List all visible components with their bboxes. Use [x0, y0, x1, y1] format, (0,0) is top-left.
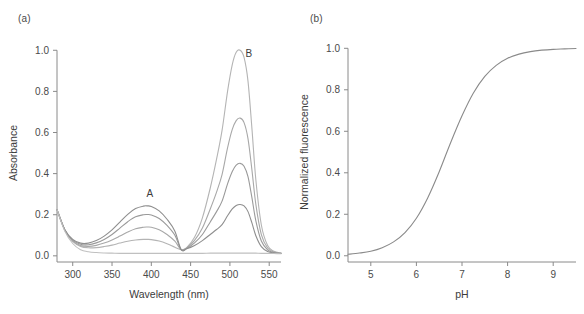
x-tick-label: 550: [261, 269, 278, 280]
data-curve-curve-2: [57, 118, 281, 253]
y-tick-label: 0.8: [35, 86, 49, 97]
x-axis-title: pH: [455, 288, 468, 300]
x-tick-label: 500: [222, 269, 239, 280]
axes-group: 0.00.20.40.60.81.056789: [326, 43, 576, 280]
y-tick-label: 0.2: [35, 209, 49, 220]
y-tick-label: 0.6: [326, 126, 340, 137]
x-tick-label: 400: [143, 269, 160, 280]
data-curve-ph-titration-sigmoid: [348, 49, 576, 255]
peak-annotation-B: B: [245, 48, 252, 59]
ph-titration-plot: 0.00.20.40.60.81.056789pHNormalized fluo…: [292, 0, 584, 314]
panel-a: (a) 0.00.20.40.60.81.0300350400450500550…: [0, 0, 292, 314]
y-tick-label: 1.0: [326, 43, 340, 54]
y-tick-label: 0.4: [326, 167, 340, 178]
x-tick-label: 6: [414, 269, 420, 280]
y-tick-label: 1.0: [35, 45, 49, 56]
data-curve-curve-5-baseline-lowest-pH: [57, 210, 281, 254]
panel-b: (b) 0.00.20.40.60.81.056789pHNormalized …: [292, 0, 584, 314]
y-axis-title: Normalized fluorescence: [298, 94, 310, 210]
axes-group: 0.00.20.40.60.81.0300350400450500550: [35, 45, 281, 280]
x-axis-title: Wavelength (nm): [129, 288, 209, 300]
y-tick-label: 0.0: [35, 250, 49, 261]
x-tick-label: 5: [368, 269, 374, 280]
peak-annotation-A: A: [146, 188, 153, 199]
x-tick-label: 450: [182, 269, 199, 280]
y-axis-title: Absorbance: [7, 125, 19, 181]
y-tick-label: 0.6: [35, 127, 49, 138]
y-tick-label: 0.0: [326, 250, 340, 261]
x-tick-label: 300: [64, 269, 81, 280]
absorbance-spectrum-plot: 0.00.20.40.60.81.0300350400450500550Wave…: [0, 0, 292, 314]
data-curves-group: [348, 49, 576, 255]
data-curves-group: [57, 50, 281, 254]
x-tick-label: 350: [104, 269, 121, 280]
x-tick-label: 9: [550, 269, 556, 280]
figure-container: (a) 0.00.20.40.60.81.0300350400450500550…: [0, 0, 584, 314]
y-tick-label: 0.2: [326, 209, 340, 220]
x-tick-label: 8: [505, 269, 511, 280]
data-curve-curve-3: [57, 163, 281, 253]
y-tick-label: 0.4: [35, 168, 49, 179]
y-tick-label: 0.8: [326, 84, 340, 95]
x-tick-label: 7: [459, 269, 465, 280]
